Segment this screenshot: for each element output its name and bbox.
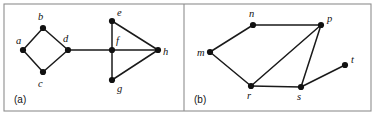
graph-node-d xyxy=(65,47,71,53)
graph-node-f xyxy=(109,47,115,53)
graph-node-e xyxy=(109,18,115,24)
graph-node-s xyxy=(298,84,304,90)
panel-caption-panel-b: (b) xyxy=(194,94,206,105)
node-label-m: m xyxy=(197,47,205,58)
graph-figure: abcdefghmnprst (a)(b) xyxy=(0,0,376,116)
node-label-e: e xyxy=(117,7,122,18)
graph-node-m xyxy=(207,49,213,55)
graph-node-h xyxy=(155,47,161,53)
node-label-n: n xyxy=(249,8,254,19)
panel-caption-panel-a: (a) xyxy=(14,94,26,105)
graph-node-t xyxy=(342,62,348,68)
graph-node-n xyxy=(250,22,256,28)
graph-node-c xyxy=(40,69,46,75)
graph-node-a xyxy=(20,47,26,53)
graph-node-b xyxy=(40,25,46,31)
node-label-d: d xyxy=(63,33,69,44)
graph-node-g xyxy=(109,77,115,83)
graph-node-r xyxy=(248,83,254,89)
node-label-g: g xyxy=(117,83,122,94)
node-label-h: h xyxy=(163,46,168,57)
node-label-s: s xyxy=(297,91,301,102)
graph-edge-r-s xyxy=(251,86,301,87)
node-label-b: b xyxy=(38,11,43,22)
figure-canvas: abcdefghmnprst (a)(b) xyxy=(0,0,376,116)
graph-node-p xyxy=(318,22,324,28)
node-label-a: a xyxy=(16,35,21,46)
node-label-c: c xyxy=(38,78,43,89)
node-label-p: p xyxy=(326,13,332,24)
